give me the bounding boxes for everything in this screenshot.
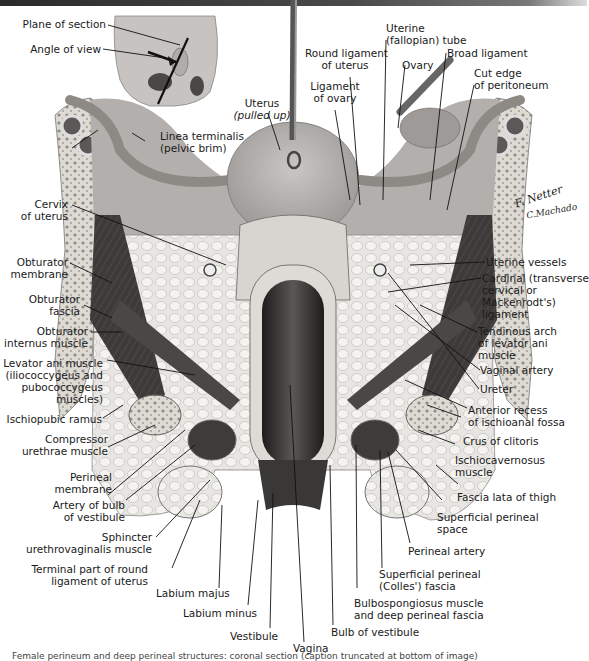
label-uterus-note: (pulled up) <box>222 109 302 121</box>
label-fascia-lata: Fascia lata of thigh <box>457 491 556 503</box>
label-terminal-round-ligament: Terminal part of round ligament of uteru… <box>0 563 148 587</box>
label-artery-of-bulb: Artery of bulb of vestibule <box>0 499 125 523</box>
label-ureter: Ureter <box>480 383 513 395</box>
label-ovary: Ovary <box>402 59 433 71</box>
figure-caption-truncated: Female perineum and deep perineal struct… <box>12 652 577 661</box>
label-obturator-internus: Obturator internus muscle <box>0 325 88 349</box>
label-round-ligament: Round ligament of uterus <box>305 47 385 71</box>
label-labium-minus: Labium minus <box>183 607 257 619</box>
label-sphincter-urethrovaginalis: Sphincter urethrovaginalis muscle <box>0 531 152 555</box>
label-crus-of-clitoris: Crus of clitoris <box>463 435 538 447</box>
label-ischiocavernosus: Ischiocavernosus muscle <box>455 454 545 478</box>
label-colles-fascia: Superficial perineal (Colles') fascia <box>379 568 481 592</box>
label-cervix: Cervix of uterus <box>0 198 68 222</box>
label-bulb-of-vestibule: Bulb of vestibule <box>331 626 419 638</box>
inset-orientation-diagram <box>114 16 217 106</box>
label-anterior-recess: Anterior recess of ischioanal fossa <box>468 404 565 428</box>
label-perineal-artery: Perineal artery <box>408 545 485 557</box>
label-uterine-tube: Uterine (fallopian) tube <box>386 22 467 46</box>
label-obturator-membrane: Obturator membrane <box>0 256 68 280</box>
label-bulbospongiosus: Bulbospongiosus muscle and deep perineal… <box>354 597 484 621</box>
label-plane-of-section: Plane of section <box>12 18 106 30</box>
label-perineal-membrane: Perineal membrane <box>0 471 112 495</box>
label-ligament-of-ovary: Ligament of ovary <box>300 80 370 104</box>
label-superficial-perineal-space: Superficial perineal space <box>437 511 539 535</box>
label-ischiopubic-ramus: Ischiopubic ramus <box>0 413 102 425</box>
label-vaginal-artery: Vaginal artery <box>480 364 554 376</box>
label-levator-ani: Levator ani muscle (iliococcygeus and pu… <box>0 357 103 405</box>
label-cardinal-ligament: Cardinal (transverse cervical or Mackenr… <box>482 272 589 320</box>
label-compressor-urethrae: Compressor urethrae muscle <box>0 433 108 457</box>
label-labium-majus: Labium majus <box>156 587 230 599</box>
label-linea-terminalis: Linea terminalis (pelvic brim) <box>160 130 244 154</box>
label-uterine-vessels: Uterine vessels <box>486 256 566 268</box>
label-broad-ligament: Broad ligament <box>447 47 528 59</box>
label-obturator-fascia: Obturator fascia <box>0 293 80 317</box>
label-vestibule: Vestibule <box>230 630 278 642</box>
label-uterus: Uterus <box>222 97 302 109</box>
label-cut-edge-peritoneum: Cut edge of peritoneum <box>474 67 548 91</box>
label-tendinous-arch: Tendinous arch of levator ani muscle <box>478 325 557 361</box>
label-angle-of-view: Angle of view <box>12 43 101 55</box>
